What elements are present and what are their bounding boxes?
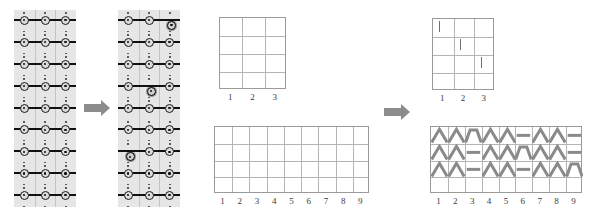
lattice-ring bbox=[165, 38, 174, 47]
grid-vline bbox=[249, 127, 250, 192]
lattice-ring bbox=[20, 191, 29, 200]
lattice-ring bbox=[124, 16, 133, 25]
lattice-dot bbox=[148, 165, 150, 167]
grid-vline bbox=[242, 18, 243, 88]
grid-vline bbox=[284, 127, 285, 192]
lattice-ring bbox=[61, 38, 70, 47]
lattice-dot bbox=[127, 56, 129, 58]
lattice-dot bbox=[23, 78, 25, 80]
lattice-ring bbox=[41, 169, 50, 178]
lattice-dot bbox=[169, 12, 171, 14]
arrow-shaft bbox=[84, 104, 102, 112]
lattice-dot bbox=[127, 206, 129, 207]
lattice-ring bbox=[61, 125, 70, 134]
lattice-ring bbox=[41, 147, 50, 156]
grid-column-label: 8 bbox=[335, 196, 352, 207]
lattice-ring bbox=[61, 82, 70, 91]
lattice-ring bbox=[41, 16, 50, 25]
grid-column-label: 2 bbox=[447, 196, 464, 207]
lattice-dot bbox=[148, 56, 150, 58]
lattice-dot bbox=[65, 100, 67, 102]
lattice-ring bbox=[145, 147, 154, 156]
lattice-ring bbox=[165, 125, 174, 134]
lattice-dot bbox=[65, 206, 67, 207]
lattice-dot bbox=[148, 12, 150, 14]
grid-glyph-peak bbox=[431, 127, 448, 144]
lattice-dot bbox=[148, 100, 150, 102]
grid-glyph-peak bbox=[448, 144, 465, 161]
grid-glyph-peak bbox=[448, 161, 465, 178]
grid-3x4-empty-wrap: 123 bbox=[219, 17, 286, 105]
grid-3x4-marked-wrap: 123 bbox=[432, 18, 494, 106]
lattice-dot bbox=[23, 56, 25, 58]
lattice-dot bbox=[23, 143, 25, 145]
grid-column-label: 2 bbox=[241, 92, 263, 103]
grid-vline bbox=[474, 19, 475, 89]
grid-column-label: 4 bbox=[266, 196, 283, 207]
grid-column-label: 1 bbox=[214, 196, 231, 207]
lattice-defect-ring bbox=[147, 87, 156, 96]
lattice-dot bbox=[148, 206, 150, 207]
lattice-row bbox=[14, 98, 76, 120]
lattice-dot bbox=[148, 34, 150, 36]
grid-glyph-flat bbox=[515, 161, 532, 178]
lattice-dot bbox=[127, 165, 129, 167]
lattice-ring bbox=[61, 16, 70, 25]
grid-glyph-peak bbox=[549, 144, 566, 161]
lattice-row bbox=[118, 32, 180, 54]
lattice-dot bbox=[44, 121, 46, 123]
grid-9x4-marked-labels: 123456789 bbox=[430, 196, 582, 207]
lattice-row bbox=[14, 163, 76, 185]
lattice-ring bbox=[165, 191, 174, 200]
grid-glyph-peak bbox=[532, 161, 549, 178]
grid-column-label: 3 bbox=[464, 196, 481, 207]
grid-glyph-trapezoid bbox=[515, 144, 532, 161]
lattice-ring bbox=[145, 191, 154, 200]
grid-9x4-marked-wrap: 123456789 bbox=[430, 126, 582, 209]
grid-glyph-peak bbox=[549, 161, 566, 178]
grid-column-label: 6 bbox=[514, 196, 531, 207]
grid-column-label: 5 bbox=[283, 196, 300, 207]
lattice-row bbox=[118, 163, 180, 185]
grid-glyph-flat bbox=[566, 127, 583, 144]
grid-glyph-flat bbox=[465, 161, 482, 178]
lattice-ring bbox=[124, 125, 133, 134]
lattice-ring bbox=[41, 104, 50, 113]
grid-glyph-peak bbox=[499, 127, 516, 144]
grid-vline bbox=[301, 127, 302, 192]
grid-column-label: 2 bbox=[231, 196, 248, 207]
grid-glyph-peak bbox=[448, 127, 465, 144]
lattice-dot bbox=[148, 187, 150, 189]
lattice-row bbox=[14, 185, 76, 207]
grid-3x4-marked bbox=[432, 18, 494, 90]
lattice-dot bbox=[65, 187, 67, 189]
lattice-ring bbox=[20, 169, 29, 178]
lattice-ring bbox=[20, 38, 29, 47]
grid-column-label: 3 bbox=[248, 196, 265, 207]
lattice-ring bbox=[61, 104, 70, 113]
lattice-dot bbox=[44, 206, 46, 207]
grid-glyph-trapezoid bbox=[465, 127, 482, 144]
lattice-ring bbox=[145, 16, 154, 25]
grid-column-label: 3 bbox=[473, 93, 494, 104]
grid-column-label: 8 bbox=[548, 196, 565, 207]
lattice-dot bbox=[44, 56, 46, 58]
lattice-dot bbox=[127, 100, 129, 102]
grid-glyph-peak bbox=[532, 127, 549, 144]
grid-9x4-empty-wrap: 123456789 bbox=[214, 126, 369, 209]
grid-hline bbox=[433, 37, 493, 38]
lattice-dot bbox=[23, 165, 25, 167]
grid-glyph-peak bbox=[482, 127, 499, 144]
lattice-ring bbox=[41, 60, 50, 69]
lattice-dot bbox=[127, 34, 129, 36]
lattice-dot bbox=[169, 78, 171, 80]
grid-column-label: 4 bbox=[481, 196, 498, 207]
grid-tick-mark bbox=[439, 21, 440, 32]
lattice-ring bbox=[145, 125, 154, 134]
grid-column-label: 1 bbox=[430, 196, 447, 207]
grid-vline bbox=[318, 127, 319, 192]
lattice-dot bbox=[44, 165, 46, 167]
grid-hline bbox=[433, 55, 493, 56]
lattice-row bbox=[118, 54, 180, 76]
lattice-ring bbox=[41, 82, 50, 91]
